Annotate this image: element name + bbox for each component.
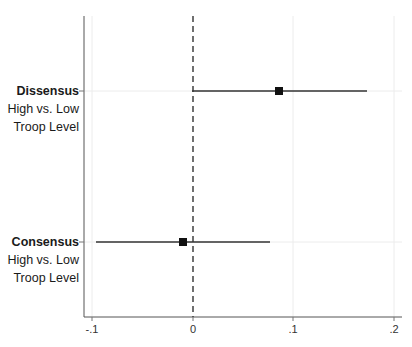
dissensus-subtitle-line1: High vs. Low (7, 100, 79, 118)
coefficient-plot: -.1 0 .1 .2 (0, 0, 412, 347)
x-tick-label-0: 0 (190, 323, 196, 335)
x-ticks (92, 317, 394, 321)
x-tick-label-01: .1 (288, 323, 297, 335)
dissensus-subtitle-line2: Troop Level (7, 118, 79, 136)
vertical-gridlines (92, 16, 394, 317)
horizontal-gridlines (84, 91, 402, 242)
dissensus-title: Dissensus (7, 82, 79, 100)
consensus-title: Consensus (7, 233, 79, 251)
x-tick-label-02: .2 (389, 323, 398, 335)
dissensus-estimate-marker (275, 87, 283, 95)
x-tick-label-neg01: -.1 (86, 323, 99, 335)
consensus-subtitle-line2: Troop Level (7, 269, 79, 287)
consensus-subtitle-line1: High vs. Low (7, 251, 79, 269)
dissensus-label: Dissensus High vs. Low Troop Level (7, 82, 79, 136)
consensus-label: Consensus High vs. Low Troop Level (7, 233, 79, 287)
consensus-estimate-marker (179, 238, 187, 246)
